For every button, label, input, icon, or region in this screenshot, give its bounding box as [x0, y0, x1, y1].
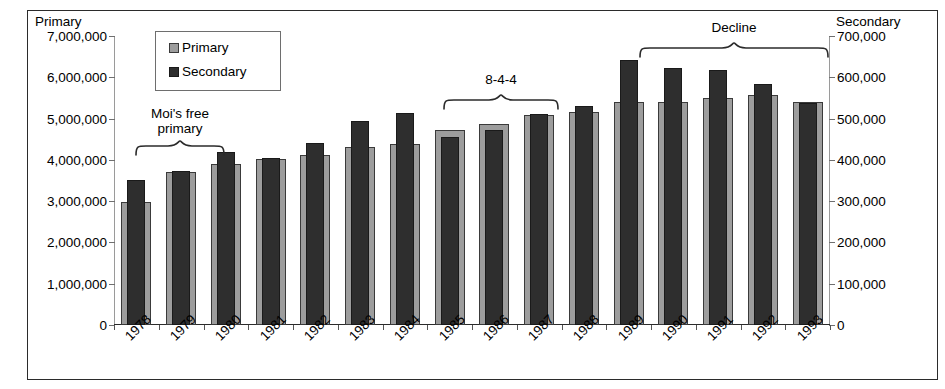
bar-secondary — [754, 84, 772, 325]
right-tick-label: 600,000 — [837, 70, 886, 85]
bar-secondary — [709, 70, 727, 325]
left-tick-label: 1,000,000 — [47, 276, 107, 291]
bar-secondary — [441, 137, 459, 325]
chart-page: Primary Secondary 01,000,0002,000,0003,0… — [0, 0, 945, 389]
x-tick — [159, 325, 160, 330]
left-tick-label: 4,000,000 — [47, 152, 107, 167]
bar-group — [383, 36, 428, 325]
x-tick — [830, 325, 831, 330]
legend-item-primary: Primary — [169, 40, 229, 55]
legend-item-secondary: Secondary — [169, 64, 247, 79]
bar-secondary — [485, 130, 503, 325]
bar-secondary — [575, 106, 593, 325]
left-tick-label: 2,000,000 — [47, 235, 107, 250]
annotation-decline-brace — [638, 42, 830, 58]
left-tick-label: 6,000,000 — [47, 70, 107, 85]
x-tick — [606, 325, 607, 330]
x-tick — [651, 325, 652, 330]
bar-secondary — [217, 152, 235, 325]
x-tick — [696, 325, 697, 330]
right-tick-label: 700,000 — [837, 29, 886, 44]
x-tick — [383, 325, 384, 330]
x-tick — [472, 325, 473, 330]
annotation-844-label: 8-4-4 — [442, 72, 560, 87]
bar-secondary — [396, 113, 414, 325]
x-tick — [741, 325, 742, 330]
bar-group — [785, 36, 830, 325]
annotation-844-brace — [442, 94, 560, 110]
legend-label-primary: Primary — [182, 40, 229, 55]
right-tick-label: 0 — [837, 318, 845, 333]
bar-secondary — [799, 103, 817, 325]
bar-secondary — [172, 171, 190, 325]
bar-group — [741, 36, 786, 325]
x-tick — [427, 325, 428, 330]
bar-group — [293, 36, 338, 325]
right-tick-label: 300,000 — [837, 194, 886, 209]
x-tick — [293, 325, 294, 330]
left-tick-label: 7,000,000 — [47, 29, 107, 44]
bar-group — [606, 36, 651, 325]
bar-secondary — [664, 68, 682, 325]
bar-secondary — [530, 114, 548, 325]
bar-group — [651, 36, 696, 325]
legend-swatch-primary — [169, 43, 179, 53]
x-tick — [562, 325, 563, 330]
bar-secondary — [620, 60, 638, 325]
x-tick — [338, 325, 339, 330]
x-tick — [785, 325, 786, 330]
legend-label-secondary: Secondary — [182, 64, 247, 79]
right-axis-title: Secondary — [836, 14, 901, 29]
bar-secondary — [306, 143, 324, 325]
annotation-moi-brace — [134, 140, 226, 156]
legend-swatch-secondary — [169, 67, 179, 77]
annotation-moi-label: Moi's free primary — [134, 106, 226, 136]
annotation-decline-label: Decline — [638, 20, 830, 35]
bar-secondary — [127, 180, 145, 325]
x-tick — [517, 325, 518, 330]
x-tick — [248, 325, 249, 330]
left-tick-label: 3,000,000 — [47, 194, 107, 209]
left-tick-label: 5,000,000 — [47, 111, 107, 126]
bar-group — [562, 36, 607, 325]
right-tick-label: 400,000 — [837, 152, 886, 167]
right-tick-label: 200,000 — [837, 235, 886, 250]
left-tick-label: 0 — [99, 318, 107, 333]
left-axis-title: Primary — [35, 14, 82, 29]
right-tick-label: 500,000 — [837, 111, 886, 126]
bar-group — [114, 36, 159, 325]
chart-legend: Primary Secondary — [155, 31, 281, 91]
x-tick — [114, 325, 115, 330]
bar-secondary — [262, 158, 280, 325]
bar-secondary — [351, 121, 369, 325]
bar-group — [696, 36, 741, 325]
right-tick-label: 100,000 — [837, 276, 886, 291]
bar-group — [338, 36, 383, 325]
x-tick — [204, 325, 205, 330]
